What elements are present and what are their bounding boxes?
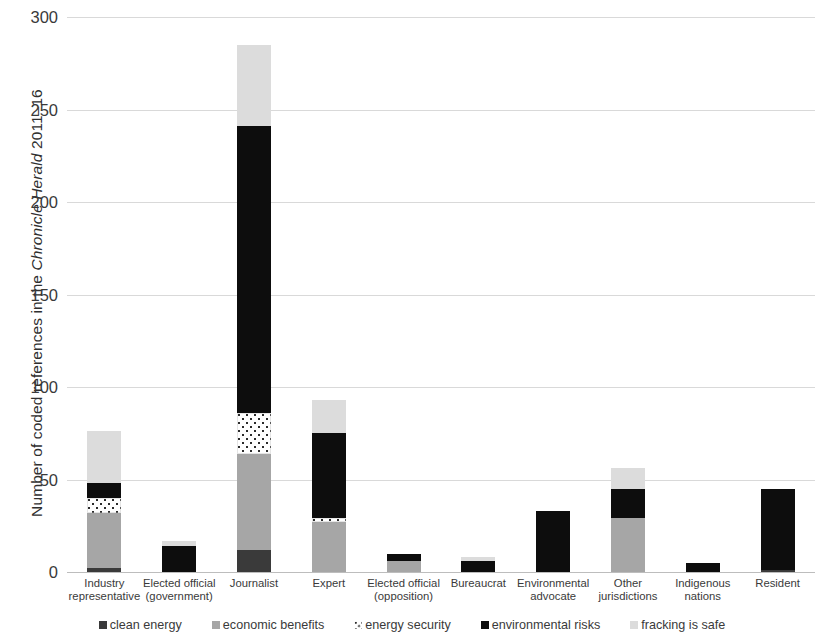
stacked-bar[interactable] [536,511,570,572]
bar-segment-fracking-is-safe[interactable] [611,468,645,488]
swatch-clean-energy-icon [99,621,107,629]
bar-slot [516,17,591,572]
y-tick-label-100: 100 [30,378,58,397]
legend-item-clean-energy[interactable]: clean energy [99,618,182,632]
x-tick-label-4: Elected official (opposition) [366,577,441,604]
bar-segment-economic-benefits[interactable] [611,518,645,572]
bar-segment-economic-benefits[interactable] [237,454,271,550]
x-tick-label-3: Expert [291,577,366,604]
swatch-energy-security-icon [354,621,362,629]
stacked-bar[interactable] [312,400,346,572]
legend-label: economic benefits [223,618,325,632]
bar-segment-energy-security[interactable] [87,498,121,513]
bar-slot [740,17,815,572]
bar-segment-environmental-risks[interactable] [162,546,196,572]
bar-segment-economic-benefits[interactable] [87,513,121,569]
y-tick-label-250: 250 [30,100,58,119]
swatch-fracking-is-safe-icon [630,621,638,629]
swatch-environmental-risks-icon [481,621,489,629]
bar-segment-environmental-risks[interactable] [461,561,495,572]
bar-segment-fracking-is-safe[interactable] [87,431,121,483]
y-tick-label-0: 0 [49,563,58,582]
bar-segment-fracking-is-safe[interactable] [312,400,346,433]
bar-slot [217,17,292,572]
stacked-bar[interactable] [686,563,720,572]
legend-item-economic-benefits[interactable]: economic benefits [212,618,325,632]
x-tick-label-5: Bureaucrat [441,577,516,604]
bar-segment-energy-security[interactable] [237,413,271,454]
stacked-bar[interactable] [162,541,196,572]
legend-label: clean energy [110,618,182,632]
bar-segment-environmental-risks[interactable] [237,126,271,413]
x-axis-tick-labels: Industry representativeElected official … [67,577,815,604]
bar-segment-environmental-risks[interactable] [536,511,570,572]
bar-segment-environmental-risks[interactable] [312,433,346,518]
bar-segment-economic-benefits[interactable] [387,561,421,572]
bar-slot [441,17,516,572]
bar-group [67,17,815,572]
bar-slot [366,17,441,572]
bar-slot [591,17,666,572]
stacked-bar[interactable] [387,554,421,572]
bar-segment-environmental-risks[interactable] [761,489,795,570]
bar-segment-economic-benefits[interactable] [312,522,346,572]
legend-label: energy security [365,618,450,632]
x-tick-label-9: Resident [740,577,815,604]
x-tick-label-0: Industry representative [67,577,142,604]
stacked-bar[interactable] [761,489,795,572]
stacked-bar[interactable] [461,557,495,572]
bar-slot [67,17,142,572]
bar-slot [142,17,217,572]
y-axis-title-italic: Chronicle Herald [28,153,45,270]
swatch-economic-benefits-icon [212,621,220,629]
stacked-bar-chart: Number of coded references in the Chroni… [0,0,824,638]
bar-segment-environmental-risks[interactable] [611,489,645,519]
bar-segment-fracking-is-safe[interactable] [237,45,271,126]
bar-segment-clean-energy[interactable] [87,568,121,572]
legend-label: environmental risks [492,618,601,632]
x-tick-label-7: Other jurisdictions [591,577,666,604]
bar-segment-clean-energy[interactable] [237,550,271,572]
stacked-bar[interactable] [87,431,121,572]
x-tick-label-2: Journalist [217,577,292,604]
legend-item-fracking-is-safe[interactable]: fracking is safe [630,618,725,632]
bar-slot [665,17,740,572]
x-tick-label-1: Elected official (government) [142,577,217,604]
y-tick-label-200: 200 [30,193,58,212]
legend-label: fracking is safe [641,618,725,632]
stacked-bar[interactable] [237,45,271,572]
chart-legend: clean energyeconomic benefitsenergy secu… [0,618,824,632]
x-tick-label-6: Environmental advocate [516,577,591,604]
gridline-0 [67,572,815,573]
bar-segment-environmental-risks[interactable] [387,554,421,561]
x-tick-label-8: Indigenous nations [665,577,740,604]
stacked-bar[interactable] [611,468,645,572]
bar-segment-environmental-risks[interactable] [686,563,720,572]
legend-item-energy-security[interactable]: energy security [354,618,450,632]
bar-slot [291,17,366,572]
bar-segment-clean-energy[interactable] [761,570,795,572]
y-axis-title-suffix: 2011–16 [28,89,45,153]
legend-item-environmental-risks[interactable]: environmental risks [481,618,601,632]
plot-area: 050100150200250300 [67,17,815,572]
bar-segment-environmental-risks[interactable] [87,483,121,498]
y-tick-label-150: 150 [30,285,58,304]
y-tick-label-50: 50 [40,470,58,489]
y-tick-label-300: 300 [30,8,58,27]
